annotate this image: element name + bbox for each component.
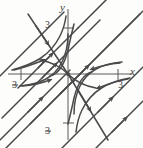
trajectory-straight-a2 (78, 0, 126, 28)
tick-label-x-positive-3: 3 (118, 80, 123, 90)
tick-label-y-negative-3: 3 (45, 126, 50, 136)
trajectory-straight-h-arrow (28, 98, 42, 112)
y-axis-label: y (60, 2, 65, 13)
trajectory-curve-right-mid-arrow (92, 63, 120, 69)
trajectory-curve-upper-left-arrow (14, 60, 44, 70)
trajectory-straight-g-arrow (98, 98, 112, 112)
phase-portrait-figure: y x 3 3 3 3 (0, 0, 143, 148)
x-axis-label: x (130, 66, 135, 77)
trajectory-straight-c-arrow (60, 80, 74, 94)
equilibrium-point-origin (66, 72, 70, 76)
phase-portrait-canvas (0, 0, 143, 148)
tick-label-y-positive-3: 3 (45, 20, 50, 30)
trajectory-straight-f-arrow (112, 118, 126, 132)
axis-lines (8, 9, 132, 140)
trajectory-straight-d-arrow (42, 64, 56, 78)
tick-label-x-negative-3: 3 (12, 80, 17, 90)
